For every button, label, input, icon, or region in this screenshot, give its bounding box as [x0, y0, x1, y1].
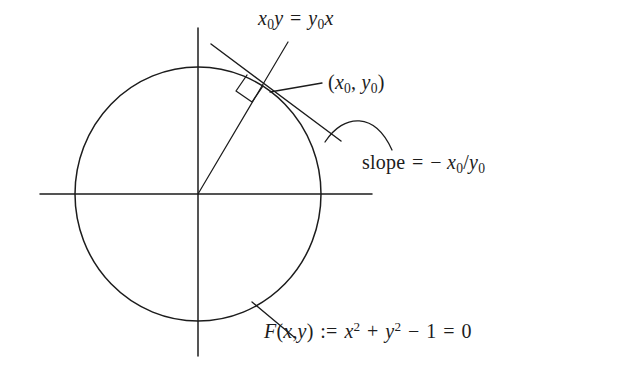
- curve-eq-arg2: y: [298, 320, 307, 342]
- curve-equation-label: F(x,y):=x2+y2−1=0: [264, 320, 472, 341]
- curve-eq-zero: 0: [462, 320, 472, 342]
- point-close-paren: ): [378, 71, 385, 93]
- slope-denominator-sub: 0: [478, 161, 485, 176]
- curve-eq-equals-sign: =: [443, 320, 454, 342]
- point-comma: ,: [351, 71, 356, 93]
- tangent-point-label: (x0,y0): [328, 72, 385, 95]
- curve-eq-defines-symbol: :=: [320, 320, 337, 342]
- curve-eq-term2-exponent: 2: [394, 319, 401, 334]
- curve-eq-constant: 1: [426, 320, 436, 342]
- slope-relation: =: [412, 151, 423, 173]
- curve-eq-arg1: x: [283, 320, 292, 342]
- point-y-sub: 0: [371, 81, 378, 96]
- point-open-paren: (: [328, 71, 335, 93]
- curve-eq-function-name: F: [264, 320, 276, 342]
- slope-label: slope=−x0/y0: [362, 152, 485, 175]
- curve-eq-plus-sign: +: [367, 320, 378, 342]
- slope-numerator-var: x: [447, 151, 456, 173]
- curve-eq-close-paren: ): [307, 320, 314, 342]
- tangent-eq-relation: =: [290, 7, 301, 29]
- tangent-eq-rhs-var2: x: [325, 7, 334, 29]
- tangent-eq-rhs-sub: 0: [318, 17, 325, 32]
- tangent-line-equation-label: x0y=y0x: [258, 8, 334, 31]
- slope-minus-sign: −: [430, 151, 441, 173]
- tangent-eq-rhs-var: y: [308, 7, 317, 29]
- tangent-eq-lhs-var2: y: [274, 7, 283, 29]
- curve-eq-minus-sign: −: [408, 320, 419, 342]
- slope-denominator-var: y: [469, 151, 478, 173]
- tangent-eq-lhs-var: x: [258, 7, 267, 29]
- curve-eq-term1-exponent: 2: [353, 319, 360, 334]
- point-y-var: y: [361, 71, 370, 93]
- slope-word: slope: [362, 151, 405, 173]
- point-x-var: x: [335, 71, 344, 93]
